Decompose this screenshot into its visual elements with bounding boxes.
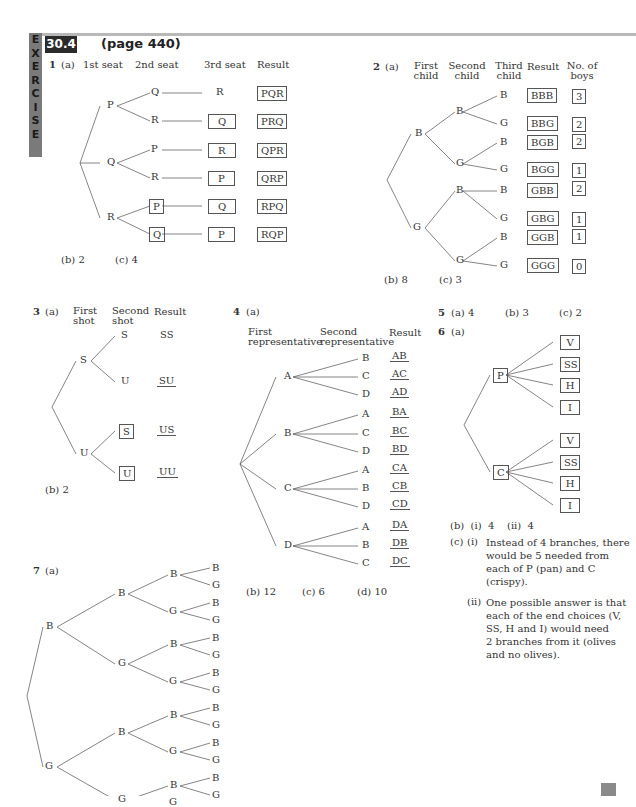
q7-fourth-node: B (212, 737, 219, 748)
q7-third-node: B (170, 568, 177, 579)
q1-result: QRP (257, 171, 287, 186)
q3-first-node: U (80, 447, 88, 458)
q2-second-node: G (456, 157, 464, 168)
q4-result: DA (390, 519, 409, 530)
q6-part-c-ii-text: One possible answer is that each of the … (486, 596, 626, 661)
q2-header-third-child: Third child (489, 61, 529, 81)
q1-header-result: Result (257, 59, 289, 70)
q1-third-node: R (208, 143, 236, 158)
q1-header-3rd-seat: 3rd seat (204, 59, 246, 70)
q4-result: DB (390, 537, 409, 548)
q7-first-node: B (46, 620, 53, 631)
q1-result: PRQ (257, 114, 287, 129)
q7-fourth-node: G (212, 614, 220, 625)
q1-part-a-label: (a) (61, 59, 75, 70)
q4-result: AD (390, 386, 409, 397)
q2-result: GBG (527, 211, 559, 226)
q4-result: CA (390, 462, 409, 473)
q6-part-c-i-text: Instead of 4 branches, there would be 5 … (486, 536, 630, 588)
q7-third-node: B (170, 779, 177, 790)
q7-third-node: B (170, 709, 177, 720)
q4-part-c: (c) 6 (302, 586, 325, 597)
q5-number: 5 (438, 307, 445, 318)
q4-result: DC (390, 555, 410, 566)
q1-second-node: R (151, 114, 159, 125)
q1-third-node: R (216, 86, 224, 97)
q4-first-node: A (284, 370, 291, 381)
q7-second-node: G (118, 793, 126, 804)
q6-topping: H (560, 476, 580, 491)
q1-third-node: P (208, 171, 235, 186)
q2-boys-count: 3 (572, 89, 586, 104)
q1-header-1st-seat: 1st seat (83, 59, 123, 70)
q4-second-node: C (362, 370, 370, 381)
q6-part-c-label: (c) (450, 536, 463, 547)
q2-third-node: G (500, 117, 508, 128)
q4-part-a-label: (a) (246, 306, 260, 317)
q2-boys-count: 2 (572, 181, 586, 196)
q1-number: 1 (49, 59, 56, 70)
q5-part-a: (a) 4 (451, 307, 474, 318)
q2-boys-count: 1 (572, 212, 586, 227)
q7-third-node: G (169, 675, 177, 686)
q3-result: SS (160, 329, 174, 340)
q1-node-p: P (107, 99, 114, 110)
q6-node-crispy: C (493, 465, 509, 480)
q7-fourth-node: G (212, 754, 220, 765)
q2-third-node: B (500, 231, 507, 242)
q3-header-first-shot: First shot (73, 306, 97, 326)
q5-part-b: (b) 3 (505, 307, 529, 318)
q4-first-node: C (284, 482, 292, 493)
q6-topping: I (560, 400, 580, 415)
q7-second-node: B (118, 726, 125, 737)
q2-first-node: B (415, 127, 422, 138)
q6-number: 6 (438, 326, 445, 337)
q4-second-node: D (362, 445, 370, 456)
q6-topping: V (560, 433, 580, 448)
q4-result: CB (390, 480, 409, 491)
q2-result: BGB (527, 135, 558, 150)
q2-second-node: G (456, 254, 464, 265)
q4-second-node: D (362, 388, 370, 399)
q4-part-b: (b) 12 (246, 586, 276, 597)
q7-fourth-node: G (212, 719, 220, 730)
q7-third-node: B (170, 638, 177, 649)
q2-first-node: G (413, 221, 421, 232)
q6-part-c-ii-label: (ii) (467, 596, 481, 607)
q2-result: BBB (527, 88, 557, 103)
q1-second-node: P (149, 199, 164, 214)
q2-part-a-label: (a) (385, 61, 399, 72)
q7-fourth-node: G (212, 684, 220, 695)
q2-third-node: G (500, 259, 508, 270)
q4-result: CD (390, 498, 410, 509)
q4-second-node: C (362, 557, 370, 568)
q3-header-second-shot: Second shot (112, 306, 149, 326)
q7-fourth-node: B (212, 562, 219, 573)
q7-first-node: G (45, 760, 53, 771)
q1-part-c: (c) 4 (115, 254, 138, 265)
q2-header-second-child: Second child (444, 61, 490, 81)
q2-boys-count: 1 (572, 229, 586, 244)
q7-fourth-node: G (212, 649, 220, 660)
q1-second-node: Q (151, 86, 159, 97)
q4-result: AC (390, 368, 409, 379)
q1-second-node: P (151, 143, 158, 154)
q7-second-node: B (118, 587, 125, 598)
q2-result: BBG (527, 116, 558, 131)
q2-boys-count: 1 (572, 163, 586, 178)
q6-topping: V (560, 335, 580, 350)
q7-third-node: G (169, 745, 177, 756)
q7-number: 7 (33, 565, 40, 576)
q2-result: GGB (527, 230, 558, 245)
q3-number: 3 (33, 306, 40, 317)
q6-node-pan: P (493, 368, 508, 383)
q4-second-node: A (362, 521, 369, 532)
q2-third-node: B (500, 184, 507, 195)
q4-result: BD (390, 443, 409, 454)
q4-second-node: A (362, 464, 369, 475)
q7-fourth-node: G (212, 789, 220, 800)
q4-second-node: D (362, 500, 370, 511)
q7-third-node: G (169, 605, 177, 616)
q2-header-first-child: First child (406, 61, 446, 81)
q7-part-a-label: (a) (45, 565, 59, 576)
